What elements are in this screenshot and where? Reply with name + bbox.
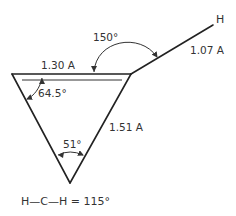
angle-arc-150 — [94, 42, 157, 72]
bond-length-side: 1.51 A — [109, 121, 144, 133]
bond-length-c-h: 1.07 A — [190, 44, 225, 56]
hch-angle-caption: H—C—H = 115° — [21, 195, 110, 208]
bond-length-top: 1.30 A — [41, 59, 76, 71]
angle-label-150: 150° — [93, 31, 118, 43]
molecule-diagram: H 1.30 A 150° 1.07 A 64.5° 1.51 A 51° H—… — [0, 0, 236, 216]
angle-label-51: 51° — [63, 138, 82, 150]
arrowhead-150-start — [91, 66, 97, 72]
atom-label-h: H — [216, 13, 224, 26]
arrowhead-64-5-start — [39, 78, 45, 84]
arrowhead-51-start — [58, 152, 64, 158]
angle-label-64-5: 64.5° — [38, 87, 67, 99]
